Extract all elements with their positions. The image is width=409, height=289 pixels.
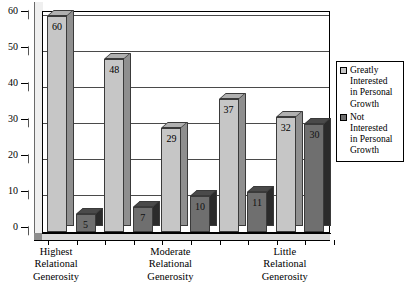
category-label-line: Generosity [147, 271, 193, 282]
bar-front-face [304, 124, 324, 232]
x-axis-tick-mark [277, 240, 278, 245]
x-axis-tick-mark [162, 240, 163, 245]
bar: 29 [161, 128, 181, 232]
category-label-line: Generosity [262, 271, 308, 282]
legend-item-greatly-interested: Greatly Interested in Personal Growth [340, 65, 400, 110]
bar: 5 [76, 214, 96, 232]
category-label: ModerateRelationalGenerosity [115, 246, 225, 283]
category-label-line: Generosity [33, 271, 79, 282]
bar-front-face [190, 196, 210, 232]
bar-front-face [133, 207, 153, 232]
category-label-line: Relational [149, 258, 192, 269]
bar: 7 [133, 207, 153, 232]
y-axis-tick-label: 50 [0, 42, 18, 52]
y-axis-tick-mark [21, 191, 28, 192]
x-axis-tick-mark [334, 240, 335, 245]
x-axis-tick-mark [305, 240, 306, 245]
x-axis-baseline [42, 233, 331, 234]
legend-swatch-icon-dark [340, 114, 347, 121]
y-axis-tick-label: 0 [0, 222, 18, 232]
x-axis-tick-mark [77, 240, 78, 245]
bar-front-face [219, 99, 239, 232]
bar-side-face [124, 53, 131, 226]
legend-label-greatly-interested: Greatly Interested in Personal Growth [350, 65, 392, 110]
y-axis-tick-mark [21, 227, 28, 228]
bar-side-face [296, 111, 303, 226]
gridline [43, 51, 329, 52]
bar: 60 [47, 16, 67, 232]
bar-side-face [67, 10, 74, 226]
x-axis-tick-mark [48, 240, 49, 245]
bar: 11 [247, 192, 267, 232]
x-axis-tick-mark [105, 240, 106, 245]
legend: Greatly Interested in Personal Growth No… [336, 61, 404, 162]
category-label-line: Little [273, 246, 296, 257]
bar: 30 [304, 124, 324, 232]
bar-side-face [210, 190, 217, 226]
gridline [43, 15, 329, 16]
bar: 37 [219, 99, 239, 232]
bar: 10 [190, 196, 210, 232]
y-axis-tick-label: 10 [0, 186, 18, 196]
category-label: LittleRelationalGenerosity [230, 246, 340, 283]
y-axis-tick-mark [21, 47, 28, 48]
y-axis-tick-label: 20 [0, 150, 18, 160]
category-label-line: Relational [263, 258, 306, 269]
y-axis-tick-mark [21, 155, 28, 156]
category-label-line: Relational [34, 258, 77, 269]
category-label: HighestRelationalGenerosity [1, 246, 111, 283]
y-axis-tick-label: 60 [0, 6, 18, 16]
bar-front-face [247, 192, 267, 232]
y-axis-tick-mark [21, 119, 28, 120]
y-axis-tick-label: 40 [0, 78, 18, 88]
category-label-line: Moderate [150, 246, 190, 257]
plot-area: 605487291037113230 [42, 11, 330, 233]
bar-side-face [239, 93, 246, 226]
x-axis-tick-mark [191, 240, 192, 245]
bar-front-face [47, 16, 67, 232]
x-axis-tick-mark [220, 240, 221, 245]
bar: 32 [276, 117, 296, 232]
bar-chart: 605487291037113230 6050403020100 Highest… [0, 0, 409, 289]
y-axis-tick-mark [21, 11, 28, 12]
y-axis-tick-mark [21, 83, 28, 84]
bar-side-face [181, 122, 188, 226]
bar-side-face [324, 118, 331, 226]
bar: 48 [104, 59, 124, 232]
x-axis-tick-mark [248, 240, 249, 245]
bar-front-face [76, 214, 96, 232]
legend-label-not-interested: Not Interested in Personal Growth [350, 112, 392, 157]
bar-front-face [276, 117, 296, 232]
y-axis-tick-label: 30 [0, 114, 18, 124]
gridline [43, 87, 329, 88]
x-axis-tick-mark [134, 240, 135, 245]
bar-front-face [104, 59, 124, 232]
bar-front-face [161, 128, 181, 232]
bar-side-face [267, 186, 274, 226]
legend-swatch-icon-light [340, 67, 347, 74]
chart-floor [34, 233, 330, 241]
category-label-line: Highest [40, 246, 73, 257]
legend-item-not-interested: Not Interested in Personal Growth [340, 112, 400, 157]
